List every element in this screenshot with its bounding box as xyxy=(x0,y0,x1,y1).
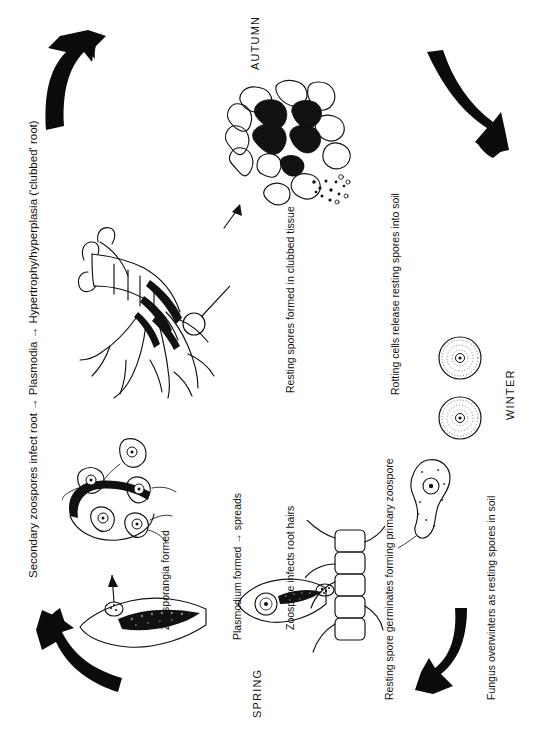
season-label-spring: SPRING xyxy=(252,669,263,718)
stage-label-rotting-cells-release: Rotting cells release resting spores int… xyxy=(390,193,401,395)
cycle-arrow-autumn-to-winter xyxy=(405,38,525,173)
season-label-autumn: AUTUMN xyxy=(250,16,261,70)
stage-label-overwinter: Fungus overwinters as resting spores in … xyxy=(486,496,497,700)
clubbed-tissue-cells-drawing xyxy=(218,78,363,208)
secondary-zoospores-drawing xyxy=(62,430,182,555)
plasmodium-in-root-drawing xyxy=(238,560,328,640)
stage-label-resting-spores-formed: Resting spores formed in clubbed tissue xyxy=(285,206,296,393)
stage-label-germination: Resting spore germinates forming primary… xyxy=(384,458,395,700)
season-label-winter: WINTER xyxy=(505,369,516,420)
resting-spores-drawing xyxy=(428,330,492,450)
cycle-arrow-spring-to-summer xyxy=(18,18,133,133)
zoosporangium-drawing xyxy=(78,575,208,665)
stage-label-secondary-infection: Secondary zoospores infect root → Plasmo… xyxy=(28,120,40,578)
primary-zoospore-drawing xyxy=(398,450,468,550)
cycle-arrow-winter-to-spring xyxy=(405,600,525,720)
leader-arrow-head xyxy=(222,200,246,230)
figure-canvas: AUTUMN WINTER SPRING Secondary zoospores… xyxy=(0,0,535,743)
clubbed-root-drawing xyxy=(70,220,230,400)
